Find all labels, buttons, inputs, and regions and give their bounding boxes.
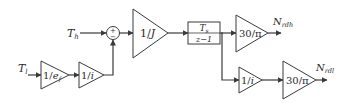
svg-text:Tl: Tl <box>18 62 28 76</box>
svg-text:1/i: 1/i <box>241 75 254 86</box>
input-t-h-label: Th <box>67 27 79 41</box>
svg-text:1/i: 1/i <box>81 70 94 81</box>
output-n-rdl-label: Nrdl <box>315 62 334 75</box>
svg-text:30/π: 30/π <box>286 75 309 86</box>
svg-text:30/π: 30/π <box>239 28 262 39</box>
svg-text:Th: Th <box>67 27 79 41</box>
gain-block-1-i-upper: 1/i <box>79 62 104 88</box>
gain-block-1-i-lower: 1/i <box>239 67 262 93</box>
output-n-rdh-label: Nrdh <box>272 16 293 29</box>
block-diagram: Tl 1/ef 1/i Th + − 1/J Ts z−1 30/π <box>0 0 346 103</box>
gain-block-30-pi-top: 30/π <box>236 15 268 52</box>
gain-block-1-j: 1/J <box>133 9 168 58</box>
svg-text:1/J: 1/J <box>140 27 156 40</box>
svg-text:−: − <box>110 33 116 41</box>
svg-text:z−1: z−1 <box>195 35 212 44</box>
svg-text:Nrdh: Nrdh <box>272 16 293 29</box>
input-t-l-label: Tl <box>18 62 28 76</box>
discrete-integrator-block: Ts z−1 <box>188 22 220 44</box>
gain-block-1-ef: 1/ef <box>41 61 69 89</box>
sum-junction: + − <box>107 27 120 42</box>
signal-line-i-to-sum <box>104 40 113 75</box>
svg-text:Nrdl: Nrdl <box>315 62 334 75</box>
gain-block-30-pi-bottom: 30/π <box>283 61 316 99</box>
